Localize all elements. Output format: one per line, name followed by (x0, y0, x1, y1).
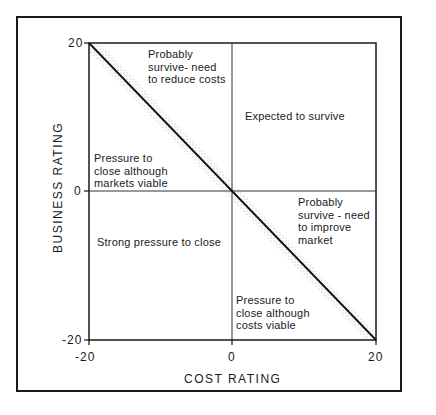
region-label-improve-market: Probablysurvive - needto improvemarket (298, 196, 370, 246)
y-tick-20: 20 (68, 36, 83, 50)
x-tick-neg20: -20 (75, 350, 95, 364)
y-tick-0: 0 (74, 184, 82, 198)
x-axis-title: COST RATING (184, 372, 281, 386)
region-label-reduce-costs: Probablysurvive- needto reduce costs (148, 48, 226, 86)
y-tick-neg20: -20 (62, 333, 82, 347)
region-label-strong-pressure: Strong pressure to close (97, 236, 221, 249)
x-tick-0: 0 (228, 350, 236, 364)
x-tick-20: 20 (368, 350, 383, 364)
y-axis-title: BUSINESS RATING (51, 133, 65, 253)
region-label-markets-viable: Pressure toclose althoughmarkets viable (94, 152, 168, 190)
region-label-expected-survive: Expected to survive (245, 110, 345, 123)
region-label-costs-viable: Pressure toclose althoughcosts viable (236, 294, 310, 332)
